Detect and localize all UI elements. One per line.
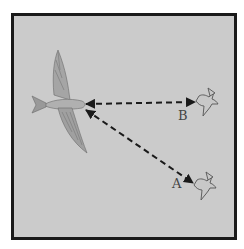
label-b: B xyxy=(178,108,188,123)
arrow-to-b xyxy=(86,102,195,104)
small-bird-a-icon xyxy=(194,172,216,200)
diagram-canvas xyxy=(0,0,244,249)
label-a: A xyxy=(172,176,181,191)
small-bird-b-icon xyxy=(196,88,218,116)
large-bird-icon xyxy=(32,50,87,153)
arrow-to-a xyxy=(86,110,193,183)
